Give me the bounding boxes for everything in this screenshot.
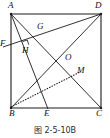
figure-caption: 图 2-5-10B	[0, 126, 110, 136]
vertex-dot-D	[100, 13, 102, 15]
point-label-G: G	[37, 22, 44, 31]
point-label-E: E	[44, 109, 50, 118]
point-label-M: M	[77, 66, 85, 75]
point-label-B: B	[9, 109, 15, 118]
point-label-H: H	[22, 46, 29, 55]
point-label-D: D	[95, 1, 102, 10]
point-label-A: A	[8, 1, 14, 10]
point-label-C: C	[96, 109, 102, 118]
point-label-F: F	[0, 39, 6, 48]
geometry-diagram	[0, 0, 110, 120]
point-label-O: O	[65, 53, 72, 62]
vertex-dot-A	[10, 13, 12, 15]
right-angle-marker	[23, 40, 29, 45]
geometry-figure: A D B C F G H O M E 图 2-5-10B	[0, 0, 110, 138]
